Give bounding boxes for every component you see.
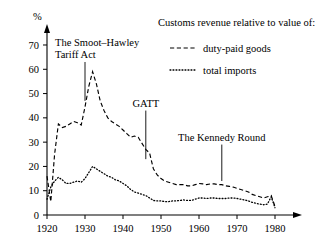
legend: Customs revenue relative to value of: du…	[158, 17, 315, 76]
legend-label-total-imports: total imports	[203, 65, 256, 76]
legend-label-duty-paid-goods: duty-paid goods	[203, 43, 271, 54]
y-tick-label: 0	[34, 210, 39, 221]
x-tick-label: 1950	[151, 223, 172, 234]
x-tick-label: 1970	[227, 223, 248, 234]
y-tick-label: 70	[29, 40, 40, 51]
customs-revenue-line-chart: % 010203040506070 1920193019401950196019…	[0, 0, 323, 250]
annotation-label-the-smoot-hawley-line2: Tariff Act	[55, 49, 96, 60]
annotation-label-the-smoot-hawley: The Smoot–Hawley	[55, 37, 140, 48]
x-tick-label: 1930	[75, 223, 96, 234]
y-tick-label: 50	[29, 88, 40, 99]
x-tick-label: 1980	[265, 223, 286, 234]
x-axis-ticks: 1920193019401950196019701980	[37, 215, 286, 234]
y-tick-label: 10	[29, 185, 40, 196]
y-axis-ticks: 010203040506070	[29, 40, 48, 221]
chart-container: % 010203040506070 1920193019401950196019…	[0, 0, 323, 250]
annotation-label-gatt: GATT	[132, 98, 159, 109]
x-tick-label: 1960	[189, 223, 210, 234]
y-tick-label: 30	[29, 137, 40, 148]
x-tick-label: 1940	[113, 223, 134, 234]
x-axis-arrowhead	[293, 212, 302, 218]
y-tick-label: 60	[29, 64, 40, 75]
y-tick-label: 20	[29, 161, 40, 172]
y-tick-label: 40	[29, 112, 40, 123]
series-line-total-imports	[47, 166, 275, 207]
y-axis-unit-label: %	[33, 11, 42, 22]
y-axis-arrowhead	[44, 24, 50, 33]
annotation-label-the-kennedy-round: The Kennedy Round	[178, 132, 266, 143]
annotations-group: The Smoot–HawleyTariff ActGATTThe Kenned…	[55, 37, 266, 181]
x-tick-label: 1920	[37, 223, 58, 234]
legend-title: Customs revenue relative to value of:	[158, 17, 315, 28]
